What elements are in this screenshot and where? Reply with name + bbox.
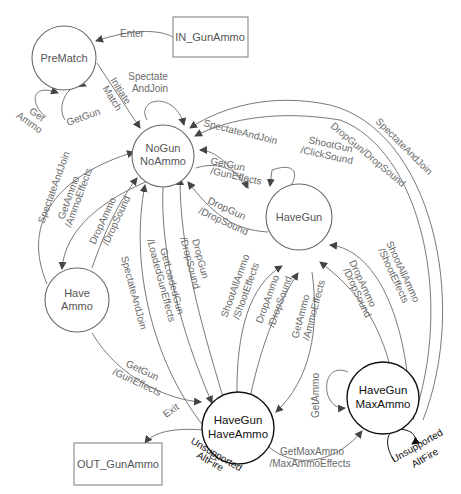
svg-text:/MaxAmmoEffects: /MaxAmmoEffects [270,458,351,469]
edge-hgma-getammo-loop [327,370,348,408]
svg-text:Spectate: Spectate [128,71,168,82]
edge-nogun-spectate-loop [145,101,184,125]
svg-text:Ammo: Ammo [61,300,93,312]
svg-text:Have: Have [64,287,90,299]
svg-text:HaveAmmo: HaveAmmo [208,428,268,440]
svg-text:Exit: Exit [161,401,181,420]
state-havegun: HaveGun [266,184,332,250]
svg-text:GetMaxAmmo: GetMaxAmmo [280,446,344,457]
svg-text:GetAmmo: GetAmmo [310,373,321,418]
svg-text:IN_GunAmmo: IN_GunAmmo [175,31,245,43]
svg-text:OUT_GunAmmo: OUT_GunAmmo [77,458,159,470]
svg-text:MaxAmmo: MaxAmmo [356,398,411,410]
state-diagram: IN_GunAmmo OUT_GunAmmo PreMatch NoGun No… [0,0,461,494]
svg-text:SpectateAndJoin: SpectateAndJoin [203,117,279,146]
svg-text:HaveGun: HaveGun [276,211,322,223]
svg-text:HaveGun: HaveGun [214,414,263,426]
state-havegun-maxammo: HaveGun MaxAmmo [347,362,419,434]
svg-text:NoGun: NoGun [146,142,181,154]
state-prematch: PreMatch [32,26,96,90]
svg-text:SpectateAndJoin: SpectateAndJoin [119,255,149,331]
state-out-gunammo: OUT_GunAmmo [74,443,162,485]
state-nogun-noammo: NoGun NoAmmo [132,125,194,187]
svg-text:GetGun: GetGun [65,106,102,128]
svg-text:NoAmmo: NoAmmo [140,155,186,167]
svg-text:HaveGun: HaveGun [359,384,408,396]
svg-text:AndJoin: AndJoin [132,83,168,94]
state-in-gunammo: IN_GunAmmo [173,17,248,57]
svg-text:PreMatch: PreMatch [40,52,87,64]
label-enter: Enter [120,28,145,39]
state-haveammo: Have Ammo [45,268,109,332]
